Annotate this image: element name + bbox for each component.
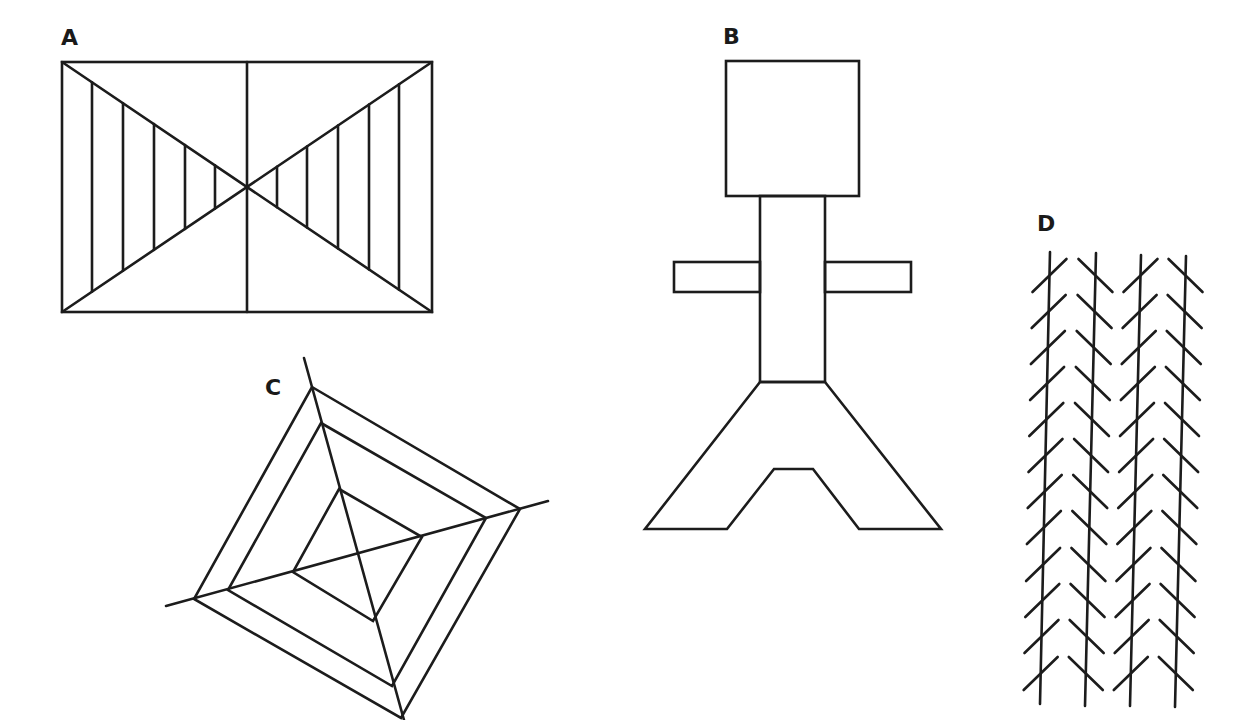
legs-shape <box>645 382 941 529</box>
right-arm-rectangle <box>825 262 911 292</box>
axis-line <box>166 501 548 606</box>
head-square <box>726 61 859 196</box>
figure-canvas <box>0 0 1244 720</box>
figure-c-spiderweb-diamond <box>166 358 548 720</box>
figure-b-figure-shape <box>645 61 941 529</box>
figure-d-zollner-lines <box>1024 252 1203 707</box>
figure-b-label: B <box>723 26 740 48</box>
figure-a-rectangle-illusion <box>62 62 432 312</box>
figure-a-label: A <box>61 27 78 49</box>
body-rectangle <box>760 196 825 382</box>
figure-c-label: C <box>265 377 281 399</box>
figure-d-label: D <box>1037 213 1055 235</box>
left-arm-rectangle <box>674 262 760 292</box>
